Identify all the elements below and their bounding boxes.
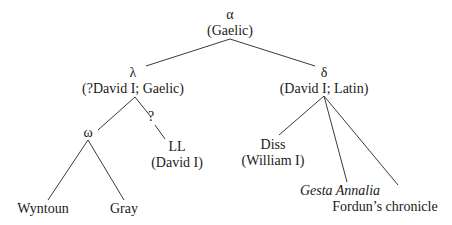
node-fordun-label: Fordun’s chronicle xyxy=(332,199,437,215)
edge-delta-gesta xyxy=(324,96,347,182)
node-wyntoun-label: Wyntoun xyxy=(17,201,68,217)
node-lambda-symbol: λ xyxy=(82,65,184,81)
edge-unknown-ll xyxy=(155,125,165,139)
node-gray-label: Gray xyxy=(110,201,138,217)
node-diss: Diss (William I) xyxy=(242,137,305,169)
edge-lambda-omega xyxy=(98,97,135,130)
node-alpha-label: (Gaelic) xyxy=(207,23,253,39)
node-ll-symbol: LL xyxy=(151,139,203,155)
node-diss-symbol: Diss xyxy=(242,137,305,153)
node-unknown-symbol: ? xyxy=(148,109,154,125)
edge-delta-diss xyxy=(279,96,324,135)
edge-alpha-lambda xyxy=(146,39,230,66)
node-gesta-annalia: Gesta Annalia xyxy=(300,183,380,199)
node-lambda: λ (?David I; Gaelic) xyxy=(82,65,184,97)
node-gesta-annalia-label: Gesta Annalia xyxy=(300,183,380,199)
edge-delta-fordun xyxy=(324,96,398,185)
node-gray: Gray xyxy=(110,201,138,217)
node-fordun: Fordun’s chronicle xyxy=(332,199,437,215)
node-alpha: α (Gaelic) xyxy=(207,7,253,39)
node-ll: LL (David I) xyxy=(151,139,203,171)
node-wyntoun: Wyntoun xyxy=(17,201,68,217)
node-delta-symbol: δ xyxy=(280,65,369,81)
node-unknown: ? xyxy=(148,109,154,125)
edge-omega-wyntoun xyxy=(48,140,88,200)
node-delta-label: (David I; Latin) xyxy=(280,81,369,97)
node-alpha-symbol: α xyxy=(207,7,253,23)
node-lambda-label: (?David I; Gaelic) xyxy=(82,81,184,97)
node-ll-label: (David I) xyxy=(151,155,203,171)
node-diss-label: (William I) xyxy=(242,153,305,169)
edge-omega-gray xyxy=(88,140,124,200)
node-omega: ω xyxy=(83,125,92,141)
node-omega-symbol: ω xyxy=(83,125,92,141)
node-delta: δ (David I; Latin) xyxy=(280,65,369,97)
edge-alpha-delta xyxy=(230,39,315,66)
